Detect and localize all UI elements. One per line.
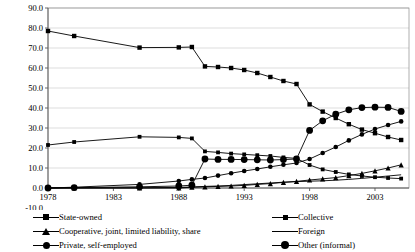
x-tick-label: 2003 <box>366 192 383 202</box>
legend-marker <box>272 239 298 251</box>
data-point-circle-large <box>319 117 326 124</box>
legend-label: State-owned <box>59 211 102 223</box>
data-point-square-small <box>321 168 325 172</box>
triangle-marker-icon <box>42 228 50 235</box>
y-tick-label: 50.0 <box>28 83 43 93</box>
chart-page: 90.080.070.060.050.040.030.020.010.00.0-… <box>0 0 415 252</box>
data-point-square <box>320 109 324 113</box>
legend-item[interactable]: Collective <box>272 210 355 224</box>
legend-marker <box>272 225 298 237</box>
data-point-circle <box>360 132 365 137</box>
data-point-circle-large <box>45 185 52 192</box>
data-point-circle-large <box>306 127 313 134</box>
data-point-circle-large <box>202 156 209 163</box>
data-point-circle <box>399 119 404 124</box>
data-point-circle <box>255 167 260 172</box>
data-point-square <box>307 102 311 106</box>
legend-label: Private, self-employed <box>59 239 137 251</box>
data-point-square-small <box>46 143 50 147</box>
data-point-square <box>177 45 181 49</box>
data-point-circle <box>216 173 221 178</box>
y-tick-label: 40.0 <box>28 103 43 113</box>
legend-column-left: State-ownedCooperative, joint, limited l… <box>33 210 200 252</box>
data-point-square-small <box>190 137 194 141</box>
data-point-circle <box>307 157 312 162</box>
y-tick-label: 30.0 <box>28 123 43 133</box>
data-point-square-small <box>72 140 76 144</box>
data-point-square <box>72 34 76 38</box>
series-line <box>48 137 401 179</box>
y-tick-label: 90.0 <box>28 3 43 13</box>
legend-label: Collective <box>298 211 333 223</box>
x-tick-label: 1998 <box>301 192 318 202</box>
data-point-circle-large <box>136 183 143 190</box>
data-point-circle-large <box>345 106 352 113</box>
x-tick-label: 1993 <box>236 192 253 202</box>
data-point-circle-large <box>267 157 274 164</box>
square-small-marker-icon <box>283 215 288 220</box>
legend-line <box>272 231 298 232</box>
data-point-circle-large <box>241 156 248 163</box>
chart-canvas: 90.080.070.060.050.040.030.020.010.00.0-… <box>0 0 415 210</box>
data-point-square-small <box>177 136 181 140</box>
data-point-circle <box>281 163 286 168</box>
data-point-square-small <box>242 153 246 157</box>
data-point-square <box>373 131 377 135</box>
data-point-circle-large <box>71 184 78 191</box>
data-point-circle-large <box>332 111 339 118</box>
legend-item[interactable]: Foreign <box>272 224 355 238</box>
data-point-square <box>386 135 390 139</box>
y-tick-label: 80.0 <box>28 23 43 33</box>
y-tick-label: 20.0 <box>28 143 43 153</box>
data-point-circle <box>242 169 247 174</box>
legend-item[interactable]: Cooperative, joint, limited liability, s… <box>33 224 200 238</box>
data-point-circle-large <box>175 183 182 190</box>
data-point-square <box>294 82 298 86</box>
data-point-circle-large <box>280 156 287 163</box>
legend-item[interactable]: Other (informal) <box>272 238 355 252</box>
data-point-circle <box>268 165 273 170</box>
data-point-square <box>46 29 50 33</box>
y-tick-label: -10.0 <box>25 203 43 210</box>
data-point-circle <box>347 138 352 143</box>
data-point-square-small <box>334 170 338 174</box>
data-point-square <box>190 45 194 49</box>
data-point-circle-large <box>398 108 405 115</box>
y-tick-label: 60.0 <box>28 63 43 73</box>
data-point-circle-large <box>254 156 261 163</box>
data-point-circle-large <box>215 156 222 163</box>
legend-column-right: CollectiveForeignOther (informal) <box>272 210 355 252</box>
data-point-square-small <box>138 135 142 139</box>
legend-marker <box>33 239 59 251</box>
data-point-square <box>255 71 259 75</box>
legend-item[interactable]: State-owned <box>33 210 200 224</box>
data-point-square <box>242 68 246 72</box>
data-point-circle-large <box>293 156 300 163</box>
data-point-square <box>268 75 272 79</box>
legend-label: Other (informal) <box>298 239 355 251</box>
data-point-square-small <box>216 151 220 155</box>
square-marker-icon <box>43 214 49 220</box>
data-point-circle-large <box>372 104 379 111</box>
data-point-square-small <box>203 150 207 154</box>
x-axis-tick-labels: 197819831988199319982003 <box>40 188 384 202</box>
legend-item[interactable]: Private, self-employed <box>33 238 200 252</box>
legend-label: Cooperative, joint, limited liability, s… <box>59 225 200 237</box>
legend-marker <box>33 225 59 237</box>
data-point-square <box>137 45 141 49</box>
y-tick-label: 70.0 <box>28 43 43 53</box>
data-point-square <box>399 138 403 142</box>
data-point-circle <box>203 176 208 181</box>
y-axis-tick-labels: 90.080.070.060.050.040.030.020.010.00.0-… <box>25 3 48 210</box>
data-point-square <box>360 127 364 131</box>
data-point-circle-large <box>188 182 195 189</box>
data-point-square-small <box>386 176 390 180</box>
data-point-square <box>281 79 285 83</box>
legend-label: Foreign <box>298 225 325 237</box>
line-chart: 90.080.070.060.050.040.030.020.010.00.0-… <box>0 0 415 210</box>
data-point-square <box>216 65 220 69</box>
series-other-informal <box>45 104 405 192</box>
x-tick-label: 1988 <box>170 192 187 202</box>
x-tick-label: 1983 <box>105 192 122 202</box>
data-point-square <box>347 122 351 126</box>
